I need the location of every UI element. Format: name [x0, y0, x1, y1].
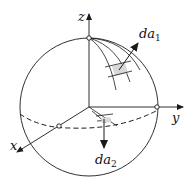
x-axis-label: x [10, 138, 18, 153]
equator-dashed [20, 110, 158, 128]
pole-point [87, 36, 91, 40]
da2-label: da2 [95, 152, 117, 169]
y-axis-label: y [171, 110, 180, 125]
sphere-diagram: z y x da1 da2 [0, 0, 190, 183]
x-intersection-point [57, 124, 61, 128]
surface-patch-da1 [105, 61, 132, 77]
z-axis-label: z [77, 9, 85, 24]
x-axis [17, 107, 89, 152]
equatorial-patch-da2 [89, 107, 117, 126]
da1-label: da1 [139, 26, 161, 43]
meridian-lines [89, 38, 140, 90]
da1-vector [119, 43, 138, 70]
y-intersection-point [155, 105, 159, 109]
